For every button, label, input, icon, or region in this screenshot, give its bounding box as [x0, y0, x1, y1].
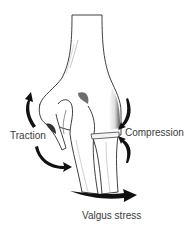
elbow-diagram	[0, 0, 190, 228]
valgus-stress-label: Valgus stress	[82, 211, 141, 221]
compression-arrow-lower	[118, 136, 131, 163]
traction-label: Traction	[10, 131, 46, 141]
compression-label: Compression	[125, 128, 184, 138]
traction-arrow-upper	[25, 92, 36, 128]
traction-arrow-lower	[35, 146, 72, 172]
